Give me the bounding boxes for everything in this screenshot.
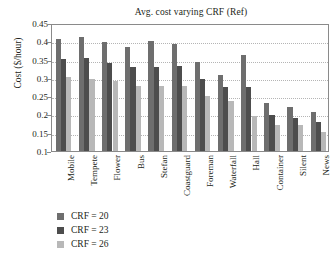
x-tick-label: Bus: [136, 155, 146, 169]
legend-label: CRF = 23: [71, 225, 109, 235]
legend-item: CRF = 23: [57, 223, 109, 237]
x-tick-label: Coastguard: [182, 155, 192, 196]
bar-group: [241, 25, 257, 151]
plot-inner: [52, 25, 328, 151]
bar-group: [148, 25, 164, 151]
x-tick-label: Hall: [251, 155, 261, 171]
x-tick-label: Tempete: [89, 155, 99, 186]
legend-swatch-icon: [57, 241, 64, 248]
legend-swatch-icon: [57, 213, 64, 220]
y-tick-label: 0.2: [8, 110, 48, 120]
y-tick-label: 0.15: [8, 129, 48, 139]
bar: [113, 81, 118, 151]
bar: [252, 116, 257, 151]
bar: [159, 86, 164, 151]
legend-swatch-icon: [57, 227, 64, 234]
x-tick-label: Container: [275, 155, 285, 191]
bar-group: [172, 25, 188, 151]
bar-group: [125, 25, 141, 151]
y-tick-label: 0.3: [8, 74, 48, 84]
bar: [66, 77, 71, 151]
bar-group: [102, 25, 118, 151]
chart-title: Avg. cost varying CRF (Ref): [52, 7, 330, 17]
bar-group: [195, 25, 211, 151]
x-tick-label: Mobile: [66, 155, 76, 181]
bar-group: [311, 25, 327, 151]
bar: [205, 96, 210, 151]
x-tick-label: Foreman: [205, 155, 215, 187]
bar-group: [287, 25, 303, 151]
bar: [136, 86, 141, 151]
bar-group: [56, 25, 72, 151]
legend-item: CRF = 26: [57, 237, 109, 251]
chart-legend: CRF = 20CRF = 23CRF = 26: [57, 209, 109, 251]
bar-group: [218, 25, 234, 151]
bar: [182, 86, 187, 151]
legend-label: CRF = 26: [71, 239, 109, 249]
y-tick-label: 0.1: [8, 147, 48, 157]
legend-item: CRF = 20: [57, 209, 109, 223]
y-tick-label: 0.4: [8, 37, 48, 47]
x-tick-label: Flower: [112, 155, 122, 181]
bar-group: [264, 25, 280, 151]
x-tick-label: News: [321, 155, 331, 176]
bar: [275, 125, 280, 151]
y-tick-mark: [47, 152, 51, 153]
x-tick-label: Waterfall: [228, 155, 238, 188]
x-tick-label: Stefan: [159, 155, 169, 178]
y-tick-label: 0.25: [8, 92, 48, 102]
bar-group: [79, 25, 95, 151]
plot-area: [51, 24, 329, 152]
bar: [89, 79, 94, 151]
bar: [298, 125, 303, 151]
bar: [228, 101, 233, 151]
y-tick-label: 0.45: [8, 19, 48, 29]
legend-label: CRF = 20: [71, 211, 109, 221]
bar: [321, 132, 326, 151]
y-tick-label: 0.35: [8, 56, 48, 66]
chart-figure: Avg. cost varying CRF (Ref) Cost ($/hour…: [0, 0, 334, 261]
x-tick-label: Silent: [298, 155, 308, 176]
